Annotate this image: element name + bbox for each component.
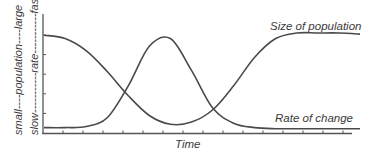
label-size-of-population: Size of population (270, 20, 361, 32)
population-curve (44, 33, 360, 125)
x-axis-label-time: Time (175, 138, 200, 150)
y-axis-label-rate: slow-----------rate-----------fast (28, 0, 40, 135)
y-axis-label-population: small----population----large (12, 5, 24, 135)
y-axis (43, 14, 46, 134)
x-axis (42, 131, 352, 134)
label-rate-of-change: Rate of change (275, 112, 353, 124)
